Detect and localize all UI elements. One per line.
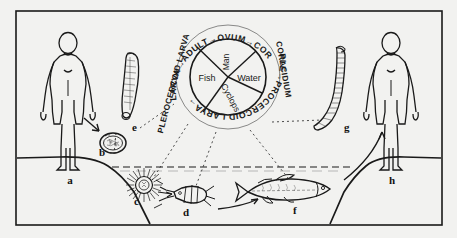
- stage-label-c: c: [134, 195, 139, 207]
- stage-label-a: a: [67, 174, 73, 186]
- stage-label-f: f: [293, 204, 297, 216]
- stage-label-b: b: [99, 146, 105, 158]
- segment-label-water: Water: [237, 73, 261, 83]
- segment-label-man: Man: [221, 53, 231, 70]
- stage-label-d: d: [183, 206, 189, 218]
- stage-label-h: h: [389, 174, 395, 186]
- life-cycle-figure: b c: [0, 0, 457, 238]
- stage-label-g: g: [344, 121, 350, 133]
- figure-canvas: b c: [0, 0, 457, 238]
- stage-label-e: e: [132, 121, 137, 133]
- segment-label-fish: Fish: [198, 73, 215, 83]
